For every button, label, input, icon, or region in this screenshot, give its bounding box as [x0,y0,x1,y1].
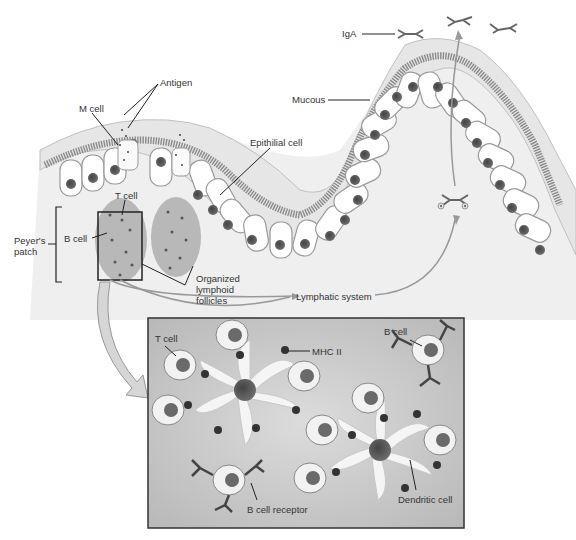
label-antigen: Antigen [160,77,192,88]
label-peyers-patch-1: Peyer's [14,235,45,246]
label-m-cell: M cell [79,103,104,114]
label-mucous: Mucous [292,94,325,105]
arrowhead-iga [455,30,463,40]
label-mhc-ii: MHC II [312,346,342,357]
label-inset-b-cell: B cell [384,326,407,337]
label-b-cell-receptor: B cell receptor [247,504,308,515]
label-epithelial-cell: Epithilial cell [250,137,302,148]
label-lymphatic-system: Lymphatic system [296,291,372,302]
label-organized-2: lymphoid [196,284,234,295]
label-b-cell: B cell [64,233,87,244]
label-organized-1: Organized [196,273,240,284]
label-dendritic-cell: Dendritic cell [398,494,452,505]
label-peyers-patch-2: patch [14,246,37,257]
diagram-canvas [0,0,576,540]
label-organized-3: follicles [196,295,227,306]
label-iga: IgA [342,28,356,39]
label-t-cell: T cell [115,190,138,201]
label-inset-t-cell: T cell [155,333,178,344]
